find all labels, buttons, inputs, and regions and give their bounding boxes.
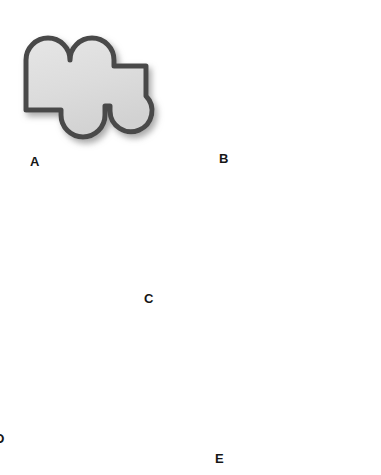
shape-label-a: A — [30, 155, 40, 168]
shape-label-c: C — [144, 292, 154, 305]
shape-label-b: B — [219, 152, 229, 165]
shape-label-e: E — [215, 452, 224, 465]
shape-label-d: D — [0, 432, 5, 445]
shapes-figure-canvas — [0, 0, 381, 475]
